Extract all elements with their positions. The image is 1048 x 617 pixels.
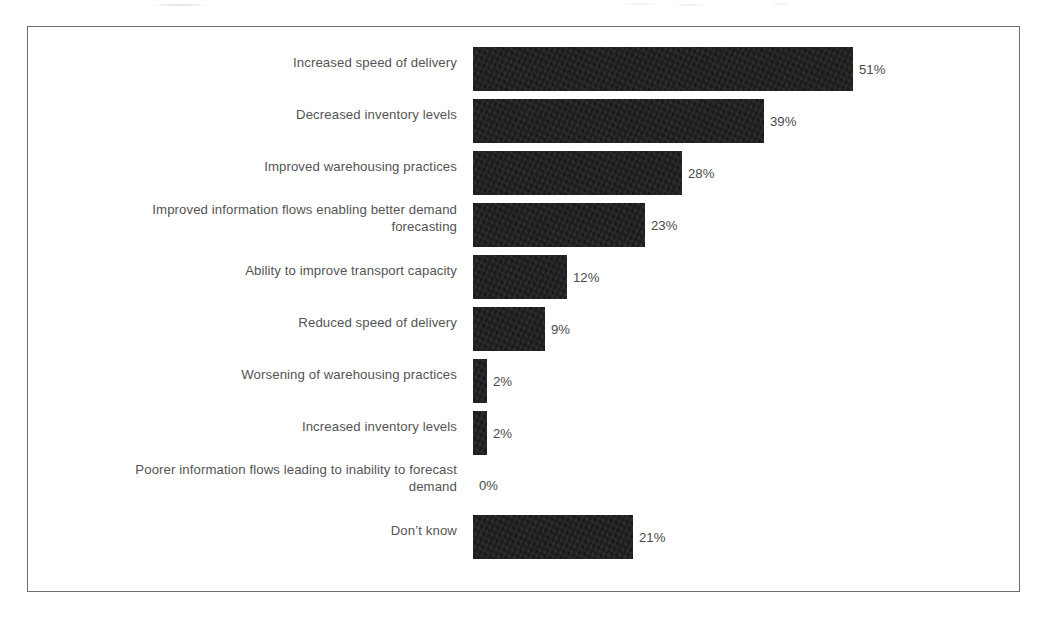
bar — [473, 411, 487, 455]
bar-value-label: 2% — [493, 373, 512, 390]
bar-value-label: 28% — [688, 165, 714, 182]
bar — [473, 359, 487, 403]
scan-artifact-strip — [0, 0, 1048, 12]
bar — [473, 151, 682, 195]
category-label: Improved warehousing practices — [37, 158, 457, 175]
bar — [473, 203, 645, 247]
bar — [473, 307, 545, 351]
bar-value-label: 51% — [859, 61, 885, 78]
category-label: Improved information flows enabling bett… — [37, 201, 457, 235]
category-label: Reduced speed of delivery — [37, 314, 457, 331]
plot-area: Increased speed of delivery51%Decreased … — [28, 27, 1019, 591]
bar-value-label: 0% — [479, 477, 498, 494]
bar — [473, 99, 764, 143]
bar — [473, 515, 633, 559]
category-label: Increased speed of delivery — [37, 54, 457, 71]
category-label: Don’t know — [37, 522, 457, 539]
category-label: Ability to improve transport capacity — [37, 262, 457, 279]
bar-value-label: 23% — [651, 217, 677, 234]
category-label: Decreased inventory levels — [37, 106, 457, 123]
bar — [473, 255, 567, 299]
category-label: Worsening of warehousing practices — [37, 366, 457, 383]
bar-value-label: 9% — [551, 321, 570, 338]
category-label: Poorer information flows leading to inab… — [37, 461, 457, 495]
bar — [473, 47, 853, 91]
bar-value-label: 39% — [770, 113, 796, 130]
category-label: Increased inventory levels — [37, 418, 457, 435]
bar-value-label: 2% — [493, 425, 512, 442]
bar-value-label: 21% — [639, 529, 665, 546]
bar-value-label: 12% — [573, 269, 599, 286]
chart-frame: Increased speed of delivery51%Decreased … — [27, 26, 1020, 592]
